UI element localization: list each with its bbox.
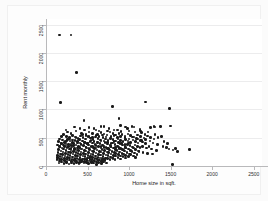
data-point xyxy=(116,129,119,132)
data-point xyxy=(110,142,113,145)
data-point xyxy=(124,157,127,160)
data-point xyxy=(114,146,117,149)
data-point xyxy=(144,138,147,141)
data-point xyxy=(91,145,94,148)
data-point xyxy=(70,34,73,37)
data-point xyxy=(83,129,86,132)
y-tick-label: 500 xyxy=(38,138,44,146)
data-point xyxy=(85,146,88,149)
data-point xyxy=(151,153,154,156)
data-point xyxy=(121,148,124,151)
data-point xyxy=(91,132,94,135)
data-point xyxy=(160,135,163,138)
data-point xyxy=(81,133,84,136)
data-point xyxy=(119,124,122,127)
data-point xyxy=(144,101,147,104)
data-point xyxy=(154,126,157,129)
x-tick-mark xyxy=(129,166,130,170)
data-point xyxy=(100,125,103,128)
data-point xyxy=(163,140,166,143)
gridline xyxy=(46,25,262,26)
data-point xyxy=(126,127,129,130)
data-point xyxy=(58,34,61,37)
data-point xyxy=(72,144,75,147)
y-tick-label: 1000 xyxy=(38,109,44,120)
data-point xyxy=(66,131,69,134)
data-point xyxy=(83,119,86,122)
data-point xyxy=(149,126,152,129)
data-point xyxy=(141,145,144,148)
data-point xyxy=(114,158,117,161)
graph-region: 05001000150020002500 0500100015002000250… xyxy=(7,5,261,195)
data-point xyxy=(188,148,191,151)
data-point xyxy=(139,135,142,138)
data-point xyxy=(128,130,131,133)
data-point xyxy=(76,147,79,150)
y-axis-title: Rent monthly xyxy=(20,19,30,166)
data-point xyxy=(96,142,99,145)
x-tick-label: 2000 xyxy=(207,171,218,177)
data-point xyxy=(154,133,157,136)
data-point xyxy=(70,147,73,150)
data-point xyxy=(155,149,158,152)
x-tick-mark xyxy=(212,166,213,170)
data-point xyxy=(127,142,130,145)
data-point xyxy=(106,147,109,150)
y-tick-label: 1500 xyxy=(38,81,44,92)
data-point xyxy=(146,135,149,138)
data-point xyxy=(75,71,78,74)
x-tick-mark xyxy=(88,166,89,170)
x-tick-mark xyxy=(254,166,255,170)
data-point xyxy=(75,130,78,133)
data-point xyxy=(119,158,122,161)
data-point xyxy=(119,135,122,138)
data-point xyxy=(140,139,143,142)
data-point xyxy=(110,145,113,148)
scatter-plot-screenshot: 05001000150020002500 0500100015002000250… xyxy=(0,0,268,201)
data-point xyxy=(90,139,93,142)
data-point xyxy=(111,105,114,108)
x-tick-label: 500 xyxy=(83,171,91,177)
data-point xyxy=(169,125,172,128)
data-point xyxy=(110,135,113,138)
data-point xyxy=(145,147,148,150)
x-tick-mark xyxy=(46,166,47,170)
x-tick-label: 1500 xyxy=(165,171,176,177)
data-point xyxy=(149,136,152,139)
data-point xyxy=(106,130,109,133)
data-point xyxy=(84,138,87,141)
data-point xyxy=(105,162,108,165)
data-point xyxy=(73,126,76,129)
data-point xyxy=(156,143,159,146)
data-point xyxy=(103,125,106,128)
data-point xyxy=(134,156,137,159)
data-point xyxy=(168,107,171,110)
x-axis-title: Home size in sqft. xyxy=(46,180,262,186)
data-point xyxy=(162,145,165,148)
data-point xyxy=(100,145,103,148)
data-point xyxy=(144,142,147,145)
data-point xyxy=(73,148,76,151)
data-point xyxy=(68,138,71,141)
data-point xyxy=(88,131,91,134)
gridline xyxy=(46,53,262,54)
data-point xyxy=(137,142,140,145)
x-tick-label: 2500 xyxy=(248,171,259,177)
data-point xyxy=(150,148,153,151)
data-point xyxy=(135,137,138,140)
data-point xyxy=(149,140,152,143)
data-point xyxy=(133,126,136,129)
data-point xyxy=(166,142,169,145)
data-point xyxy=(88,126,91,129)
data-point xyxy=(85,134,88,137)
data-point xyxy=(127,155,130,158)
data-point xyxy=(128,138,131,141)
data-point xyxy=(147,131,150,134)
data-point xyxy=(79,127,82,130)
y-axis-line xyxy=(46,19,47,166)
data-point xyxy=(142,151,145,154)
data-point xyxy=(176,150,179,153)
x-tick-label: 0 xyxy=(45,171,48,177)
data-point xyxy=(59,101,62,104)
data-point xyxy=(70,132,73,135)
